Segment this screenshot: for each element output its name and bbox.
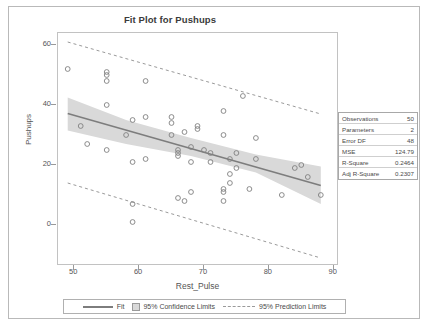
scatter-point	[104, 148, 109, 153]
scatter-point	[176, 154, 181, 159]
x-axis-ticks: 5060708090	[57, 267, 338, 281]
stats-value: 2	[411, 126, 414, 133]
scatter-point	[189, 190, 194, 195]
stats-value: 124.79	[395, 148, 414, 155]
x-tick-mark	[73, 265, 74, 270]
legend-item-fit: Fit	[83, 303, 125, 310]
table-row: MSE124.79	[339, 146, 417, 157]
scatter-point	[221, 109, 226, 114]
page-title: Fit Plot for Pushups	[0, 14, 340, 25]
scatter-point	[228, 181, 233, 186]
stats-key: MSE	[342, 148, 355, 155]
scatter-point	[247, 187, 252, 192]
scatter-point	[221, 190, 226, 195]
fit-line	[68, 113, 321, 185]
confidence-band	[68, 98, 321, 205]
table-row: Observations50	[339, 113, 417, 124]
stats-value: 50	[407, 115, 414, 122]
table-row: R-Square0.2464	[339, 157, 417, 168]
legend-label-confidence: 95% Confidence Limits	[143, 303, 215, 310]
x-tick-mark	[203, 265, 204, 270]
x-tick-mark	[138, 265, 139, 270]
legend: Fit 95% Confidence Limits 95% Prediction…	[63, 299, 346, 314]
stats-key: Parameters	[342, 126, 374, 133]
x-axis-label: Rest_Pulse	[57, 281, 338, 291]
scatter-point	[169, 115, 174, 120]
stats-value: 0.2464	[395, 159, 414, 166]
scatter-point	[169, 121, 174, 126]
scatter-point	[182, 199, 187, 204]
y-axis-ticks: 0204060	[31, 32, 51, 265]
scatter-point	[143, 115, 148, 120]
y-tick-label: 0	[33, 219, 51, 228]
legend-label-prediction: 95% Prediction Limits	[259, 303, 326, 310]
scatter-point	[182, 130, 187, 135]
y-tick-label: 60	[33, 39, 51, 48]
legend-label-fit: Fit	[117, 303, 125, 310]
statistics-table: Observations50Parameters2Error DF48MSE12…	[338, 112, 418, 180]
scatter-point	[254, 136, 259, 141]
x-tick-mark	[268, 265, 269, 270]
scatter-point	[104, 79, 109, 84]
stats-value: 48	[407, 137, 414, 144]
y-tick-label: 20	[33, 159, 51, 168]
y-tick-label: 40	[33, 99, 51, 108]
y-tick-mark	[51, 44, 56, 45]
scatter-point	[176, 196, 181, 201]
scatter-point	[65, 67, 70, 72]
y-tick-mark	[51, 164, 56, 165]
scatter-point	[279, 193, 284, 198]
legend-item-prediction: 95% Prediction Limits	[223, 303, 326, 310]
table-row: Adj R-Square0.2307	[339, 168, 417, 179]
scatter-point	[143, 157, 148, 162]
stats-key: Observations	[342, 115, 378, 122]
prediction-limit-swatch-icon	[223, 306, 255, 307]
scatter-point	[189, 160, 194, 165]
table-row: Parameters2	[339, 124, 417, 135]
stats-key: R-Square	[342, 159, 368, 166]
stats-value: 0.2307	[395, 170, 414, 177]
scatter-point	[195, 127, 200, 132]
confidence-band-swatch-icon	[132, 303, 140, 311]
fit-line-swatch-icon	[83, 306, 113, 308]
scatter-point	[221, 199, 226, 204]
y-tick-mark	[51, 104, 56, 105]
stats-key: Adj R-Square	[342, 170, 379, 177]
stats-key: Error DF	[342, 137, 366, 144]
scatter-point	[143, 79, 148, 84]
scatter-point	[221, 133, 226, 138]
scatter-point	[241, 94, 246, 99]
scatter-point	[104, 73, 109, 78]
x-tick-mark	[333, 265, 334, 270]
scatter-point	[85, 142, 90, 147]
fit-plot-screenshot: Fit Plot for Pushups Pushups 0204060 506…	[0, 0, 429, 327]
plot-area	[57, 32, 338, 265]
prediction-limit-lower	[68, 183, 321, 258]
scatter-point	[130, 160, 135, 165]
plot-canvas	[58, 33, 337, 264]
scatter-point	[130, 118, 135, 123]
scatter-point	[104, 103, 109, 108]
legend-item-confidence: 95% Confidence Limits	[132, 303, 215, 311]
table-row: Error DF48	[339, 135, 417, 146]
scatter-point	[228, 172, 233, 177]
y-tick-mark	[51, 224, 56, 225]
scatter-point	[130, 220, 135, 225]
